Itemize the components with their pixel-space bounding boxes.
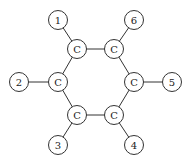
node-label: C bbox=[110, 44, 118, 55]
bonds-layer bbox=[19, 20, 172, 145]
node-label: C bbox=[54, 77, 62, 88]
carbon-atom-node-c6: C bbox=[105, 40, 124, 59]
node-label: C bbox=[73, 110, 81, 121]
node-label: C bbox=[73, 44, 81, 55]
substituent-node-s2: 2 bbox=[10, 73, 29, 92]
benzene-ring-diagram: CCCCCC123456 bbox=[0, 0, 190, 155]
carbon-atom-node-c3: C bbox=[68, 106, 87, 125]
carbon-atom-node-c4: C bbox=[105, 106, 124, 125]
node-label: C bbox=[130, 77, 138, 88]
node-label: 4 bbox=[131, 140, 137, 151]
carbon-atom-node-c2: C bbox=[49, 73, 68, 92]
carbon-atom-node-c1: C bbox=[68, 40, 87, 59]
substituent-node-s4: 4 bbox=[125, 136, 144, 155]
substituent-node-s1: 1 bbox=[49, 11, 68, 30]
substituent-node-s5: 5 bbox=[163, 73, 182, 92]
substituent-node-s3: 3 bbox=[49, 136, 68, 155]
carbon-atom-node-c5: C bbox=[125, 73, 144, 92]
substituent-node-s6: 6 bbox=[125, 11, 144, 30]
node-label: C bbox=[110, 110, 118, 121]
node-label: 2 bbox=[16, 77, 22, 88]
node-label: 3 bbox=[55, 140, 61, 151]
node-label: 1 bbox=[55, 15, 61, 26]
node-label: 5 bbox=[169, 77, 175, 88]
node-label: 6 bbox=[131, 15, 137, 26]
